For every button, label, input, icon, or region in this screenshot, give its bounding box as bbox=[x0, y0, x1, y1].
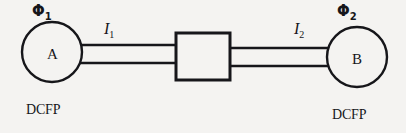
node-a-letter: A bbox=[47, 47, 58, 62]
node-a-flux-label: Φ1 bbox=[32, 4, 52, 22]
link-right-current-label: I2 bbox=[294, 21, 304, 40]
node-a-flux-subscript: 1 bbox=[45, 11, 52, 22]
node-b-flux-subscript: 2 bbox=[350, 11, 357, 22]
link-left-current-label: I1 bbox=[104, 21, 114, 40]
node-a-caption: DCFP bbox=[26, 103, 60, 117]
node-a-flux-symbol: Φ bbox=[32, 2, 45, 20]
dcfp-coupling-diagram: Φ1 Φ2 I1 I2 A B DCFP DCFP bbox=[0, 0, 406, 133]
link-left-lines bbox=[79, 45, 178, 63]
coupling-block-rect bbox=[176, 33, 230, 80]
node-b-flux-label: Φ2 bbox=[337, 4, 357, 22]
link-right-lines bbox=[228, 48, 332, 66]
node-b-caption: DCFP bbox=[332, 108, 366, 122]
link-right-current-subscript: 2 bbox=[299, 29, 304, 40]
link-left-current-subscript: 1 bbox=[109, 29, 114, 40]
node-b-letter: B bbox=[352, 52, 362, 67]
node-b-flux-symbol: Φ bbox=[337, 2, 350, 20]
